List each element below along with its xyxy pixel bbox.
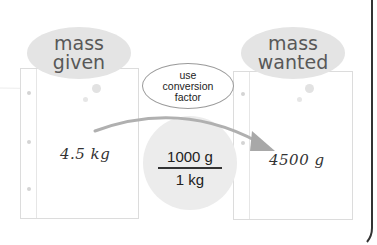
bracket-line [0,0,377,245]
